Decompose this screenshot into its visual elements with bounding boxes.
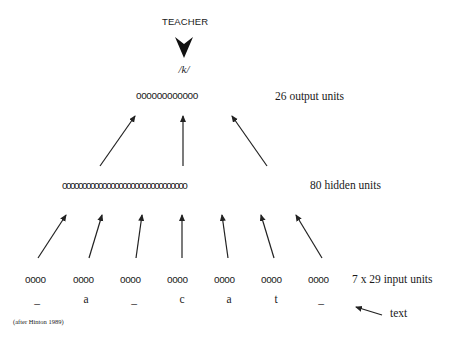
input-group-2: oooo (73, 275, 94, 285)
input-letter-4: c (172, 293, 192, 305)
text-pointer-arrow (356, 307, 382, 315)
input-group-6: oooo (261, 275, 282, 285)
input-group-7: oooo (308, 275, 329, 285)
credit-note: (after Hinton 1989) (13, 318, 64, 325)
input-to-hidden-arrows (38, 215, 322, 258)
input-letter-1: _ (27, 293, 47, 305)
output-units-row: oooooooooooo (136, 91, 198, 101)
input-group-4: oooo (167, 275, 188, 285)
hidden-layer-label: 80 hidden units (310, 179, 381, 191)
input-letter-6: t (266, 293, 286, 305)
input-letter-3: _ (124, 293, 144, 305)
input-letter-7: _ (311, 293, 331, 305)
arrows-layer (0, 0, 460, 341)
output-layer-label: 26 output units (275, 90, 344, 102)
input-layer-label: 7 x 29 input units (352, 273, 433, 285)
hidden-units-row: ooooooooooooooooooooooooooooooo (62, 181, 186, 191)
input-letter-5: a (219, 293, 239, 305)
input-group-1: oooo (25, 275, 46, 285)
input-group-3: oooo (120, 275, 141, 285)
text-label: text (390, 307, 407, 319)
input-group-5: oooo (214, 275, 235, 285)
target-phoneme: /k/ (170, 63, 198, 75)
hidden-to-output-arrows (100, 116, 267, 166)
teacher-label: TEACHER (162, 16, 206, 27)
teacher-arrow-icon (175, 37, 193, 58)
input-letter-2: a (76, 293, 96, 305)
